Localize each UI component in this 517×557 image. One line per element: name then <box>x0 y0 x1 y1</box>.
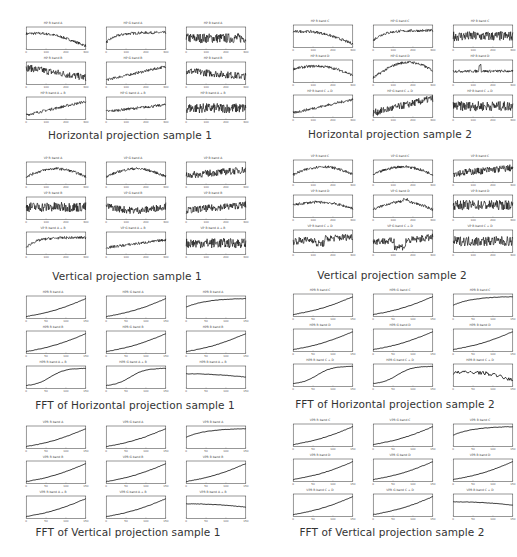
svg-text:300: 300 <box>430 48 436 52</box>
subplot: VPR B band A + B 050100150 · <box>178 496 248 529</box>
svg-text:0: 0 <box>105 50 107 54</box>
line-plot: 050100150 · <box>451 364 515 391</box>
svg-text:100: 100 <box>203 255 209 259</box>
svg-text:·: · <box>104 426 105 429</box>
svg-text:100: 100 <box>490 352 496 356</box>
svg-text:100: 100 <box>223 519 229 523</box>
svg-text:150: 150 <box>510 352 516 356</box>
svg-text:·: · <box>291 230 292 233</box>
svg-text:100: 100 <box>223 484 229 488</box>
line-plot: 050100150 · <box>371 329 435 356</box>
line-plot: 0100200300 · <box>451 60 515 87</box>
svg-text:·: · <box>291 60 292 63</box>
svg-text:150: 150 <box>83 389 89 393</box>
svg-text:150: 150 <box>350 317 356 321</box>
subplot: VPR R band C + D 050100150 · <box>285 494 355 527</box>
svg-text:·: · <box>291 364 292 367</box>
svg-text:50: 50 <box>471 447 475 451</box>
line-plot: 0100200300 · <box>184 232 248 259</box>
subplot-title: HPR G band A <box>98 290 168 294</box>
panel-caption: Horizontal projection sample 1 <box>0 129 260 141</box>
line-plot: 050100150 · <box>184 366 248 393</box>
svg-text:150: 150 <box>510 317 516 321</box>
svg-text:300: 300 <box>350 83 356 87</box>
subplot-title: HPR R band A <box>18 290 88 294</box>
svg-text:0: 0 <box>452 218 454 222</box>
svg-text:0: 0 <box>185 85 187 89</box>
panel-caption: Vertical projection sample 1 <box>0 270 257 282</box>
line-plot: 050100150 · <box>291 294 355 321</box>
svg-text:200: 200 <box>410 183 416 187</box>
svg-text:0: 0 <box>452 253 454 257</box>
svg-text:150: 150 <box>430 482 436 486</box>
line-plot: 050100150 · <box>291 459 355 486</box>
svg-text:·: · <box>451 195 452 198</box>
line-plot: 0100200300 · <box>291 230 355 257</box>
line-plot: 050100150 · <box>24 296 88 323</box>
panel-fhp1: HPR R band A 050100150 · HPR G band A 05… <box>18 296 253 396</box>
svg-text:0: 0 <box>25 120 27 124</box>
line-plot: 050100150 · <box>24 366 88 393</box>
svg-text:50: 50 <box>311 317 315 321</box>
svg-text:200: 200 <box>143 220 149 224</box>
svg-text:0: 0 <box>105 519 107 523</box>
svg-text:150: 150 <box>243 449 249 453</box>
svg-text:100: 100 <box>43 220 49 224</box>
svg-text:200: 200 <box>63 220 69 224</box>
line-plot: 050100150 · <box>184 426 248 453</box>
svg-text:·: · <box>451 160 452 163</box>
svg-text:300: 300 <box>163 85 169 89</box>
subplot-title: HP G band C + D <box>365 89 435 93</box>
svg-text:0: 0 <box>105 484 107 488</box>
line-plot: 050100150 · <box>371 424 435 451</box>
subplot-title: VP B band C + D <box>445 224 515 228</box>
subplot: HP G band A + B 0100200300 · <box>98 97 168 130</box>
svg-text:300: 300 <box>430 253 436 257</box>
svg-text:150: 150 <box>510 447 516 451</box>
svg-text:·: · <box>104 162 105 165</box>
svg-text:150: 150 <box>350 447 356 451</box>
subplot-title: VPR G band A + B <box>98 490 168 494</box>
subplot: HPR G band A + B 050100150 · <box>98 366 168 399</box>
svg-text:100: 100 <box>410 387 416 391</box>
subplot: VP R band A + B 0100200300 · <box>18 232 88 265</box>
subplot-grid: VP R band A 0100200300 · VP G band A 010… <box>18 162 253 262</box>
line-plot: 0100200300 · <box>104 27 168 54</box>
subplot-title: HP B band A <box>178 21 248 25</box>
svg-text:100: 100 <box>123 120 129 124</box>
line-plot: 0100200300 · <box>291 60 355 87</box>
svg-text:50: 50 <box>44 484 48 488</box>
svg-text:150: 150 <box>350 482 356 486</box>
subplot-title: VPR G band B <box>98 455 168 459</box>
svg-text:300: 300 <box>163 50 169 54</box>
svg-text:·: · <box>371 424 372 427</box>
line-plot: 050100150 · <box>371 294 435 321</box>
line-plot: 050100150 · <box>104 366 168 393</box>
svg-text:300: 300 <box>350 48 356 52</box>
svg-text:·: · <box>371 494 372 497</box>
svg-text:200: 200 <box>143 50 149 54</box>
subplot-title: HPR B band A <box>178 290 248 294</box>
svg-text:50: 50 <box>204 449 208 453</box>
line-plot: 050100150 · <box>371 364 435 391</box>
svg-text:300: 300 <box>243 255 249 259</box>
svg-text:0: 0 <box>25 255 27 259</box>
line-plot: 050100150 · <box>184 461 248 488</box>
svg-text:300: 300 <box>350 253 356 257</box>
svg-text:200: 200 <box>63 255 69 259</box>
svg-text:100: 100 <box>123 50 129 54</box>
svg-text:0: 0 <box>452 118 454 122</box>
svg-text:50: 50 <box>124 519 128 523</box>
panel-vp2: VP R band C 0100200300 · VP G band C 010… <box>285 160 517 260</box>
subplot-title: HP G band C <box>365 19 435 23</box>
svg-text:100: 100 <box>223 354 229 358</box>
subplot: VPR G band C + D 050100150 · <box>365 494 435 527</box>
line-plot: 0100200300 · <box>184 97 248 124</box>
svg-text:100: 100 <box>390 83 396 87</box>
svg-text:200: 200 <box>410 118 416 122</box>
svg-text:·: · <box>184 232 185 235</box>
svg-text:150: 150 <box>243 389 249 393</box>
svg-text:50: 50 <box>44 449 48 453</box>
svg-text:50: 50 <box>471 352 475 356</box>
svg-text:150: 150 <box>83 484 89 488</box>
